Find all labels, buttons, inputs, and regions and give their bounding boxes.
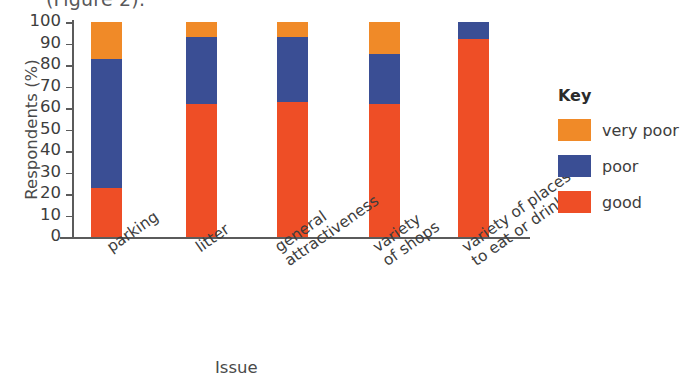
legend-item[interactable]: very poor [558,119,684,141]
y-tick-mark [66,44,73,46]
bar-segment-very-poor [91,22,122,59]
bar-segment-very-poor [277,22,308,37]
y-tick-label: 30 [40,162,61,181]
y-tick-mark [66,151,73,153]
legend-label: very poor [602,121,679,140]
legend-label: poor [602,157,638,176]
y-tick-label: 40 [40,140,61,159]
y-tick-label: 20 [40,183,61,202]
bar-segment-good [458,39,489,237]
bar-segment-poor [186,37,217,104]
legend-swatch-icon [558,191,591,213]
plot-area: 0102030405060708090100 [73,22,528,237]
y-axis-title: Respondents (%) [22,40,41,220]
y-tick-label: 10 [40,205,61,224]
y-tick-mark [66,22,73,24]
legend: Key very poorpoorgood [558,86,684,227]
caption-text: (Figure 2). [46,0,145,10]
y-tick-label: 0 [51,226,62,245]
bar-segment-good [186,104,217,237]
y-tick-label: 60 [40,97,61,116]
bar-segment-very-poor [369,22,400,54]
bar-segment-poor [369,54,400,103]
bar-segment-poor [277,37,308,102]
y-tick-mark [66,87,73,89]
bar-parking[interactable] [91,22,122,237]
bar-segment-good [91,188,122,237]
legend-label: good [602,193,642,212]
y-tick-mark [66,65,73,67]
y-tick-label: 80 [40,54,61,73]
bar-segment-good [277,102,308,237]
legend-swatch-icon [558,119,591,141]
bar-litter[interactable] [186,22,217,237]
bar-variety-of-places-to-eat-or-drink[interactable] [458,22,489,237]
y-tick-mark [66,173,73,175]
bar-segment-poor [458,22,489,39]
bar-segment-poor [91,59,122,188]
y-tick-label: 90 [40,33,61,52]
legend-item[interactable]: good [558,191,684,213]
y-tick-mark [66,194,73,196]
y-tick-mark [66,108,73,110]
x-axis-title: Issue [215,358,258,377]
y-tick-mark [66,237,73,239]
legend-items: very poorpoorgood [558,119,684,213]
legend-swatch-icon [558,155,591,177]
y-tick-label: 70 [40,76,61,95]
caption-fragment: (Figure 2). [46,0,266,10]
y-tick-mark [66,130,73,132]
y-tick-mark [66,216,73,218]
bar-segment-good [369,104,400,237]
y-tick-label: 100 [30,11,62,30]
legend-title: Key [558,86,684,105]
y-tick-label: 50 [40,119,61,138]
bar-segment-very-poor [186,22,217,37]
bar-general-attractiveness[interactable] [277,22,308,237]
legend-item[interactable]: poor [558,155,684,177]
chart-figure: (Figure 2). Respondents (%) 010203040506… [0,0,684,384]
